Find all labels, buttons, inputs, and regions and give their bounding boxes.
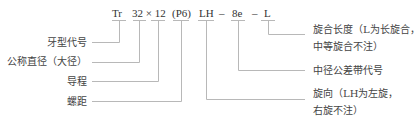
code-tolerance: 8e: [232, 7, 242, 19]
label-direction-line2: 右旋不注）: [313, 104, 398, 117]
code-hand: LH: [199, 7, 214, 19]
label-engagement-length: 旋合长度（L为长旋合， 中等旋合不注）: [313, 23, 419, 53]
label-thread-type: 牙型代号: [47, 36, 87, 49]
label-direction: 旋向（LH为左旋， 右旋不注）: [313, 87, 398, 117]
label-engagement-length-line2: 中等旋合不注）: [313, 40, 419, 53]
label-direction-line1: 旋向（LH为左旋，: [313, 87, 398, 100]
code-size-lead: 32 × 12: [132, 7, 166, 19]
code-pitch: (P6): [172, 7, 191, 19]
code-thread-type: Tr: [112, 7, 122, 19]
label-pitch-diameter-tolerance: 中径公差带代号: [313, 64, 383, 77]
code-dash-2: –: [252, 7, 258, 19]
code-dash-1: –: [219, 7, 225, 19]
code-length: L: [264, 7, 271, 19]
label-nominal-diameter: 公称直径（大径）: [7, 55, 87, 68]
label-lead: 导程: [67, 75, 87, 88]
label-engagement-length-line1: 旋合长度（L为长旋合，: [313, 23, 419, 36]
label-pitch: 螺距: [67, 95, 87, 108]
